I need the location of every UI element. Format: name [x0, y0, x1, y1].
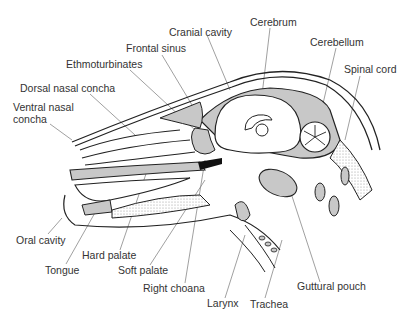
- cerebrum-shape: [215, 95, 301, 153]
- label-right-choana: Right choana: [143, 282, 205, 294]
- nasal-conchae: [80, 130, 195, 165]
- soft-palate-shape: [112, 195, 210, 218]
- anatomy-diagram: Cranial cavity Cerebrum Frontal sinus Ce…: [0, 0, 413, 323]
- vertebrae: [315, 167, 349, 216]
- label-oral-cavity: Oral cavity: [16, 234, 66, 246]
- guttural-pouch-shape: [255, 164, 301, 203]
- label-spinal-cord: Spinal cord: [344, 63, 397, 75]
- label-larynx: Larynx: [207, 297, 239, 309]
- thalamus: [256, 124, 268, 136]
- frontal-sinus-shape: [160, 102, 203, 128]
- label-dorsal-nasal-concha: Dorsal nasal concha: [20, 82, 115, 94]
- label-cranial-cavity: Cranial cavity: [169, 26, 232, 38]
- label-soft-palate: Soft palate: [118, 264, 168, 276]
- label-ventral-nasal-concha: Ventral nasal concha: [13, 101, 74, 125]
- tongue-shape: [82, 200, 112, 215]
- label-trachea: Trachea: [250, 298, 288, 310]
- label-cerebrum: Cerebrum: [250, 16, 297, 28]
- label-frontal-sinus: Frontal sinus: [126, 42, 186, 54]
- trachea-outline: [230, 225, 275, 272]
- label-guttural-pouch: Guttural pouch: [297, 280, 366, 292]
- label-cerebellum: Cerebellum: [310, 36, 364, 48]
- label-ethmoturbinates: Ethmoturbinates: [66, 58, 142, 70]
- spinal-cord-shape: [330, 140, 372, 200]
- right-choana-shape: [198, 158, 222, 170]
- label-hard-palate: Hard palate: [82, 249, 136, 261]
- label-tongue: Tongue: [45, 264, 79, 276]
